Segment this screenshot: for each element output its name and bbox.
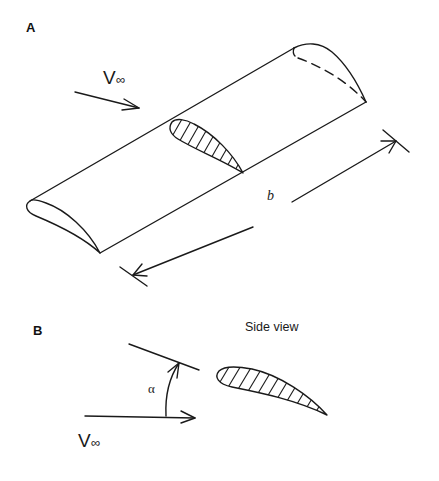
chord-line (129, 344, 199, 370)
freestream-arrow-a (75, 92, 139, 110)
freestream-arrow-b (85, 411, 195, 423)
svg-text:∞: ∞ (91, 435, 100, 450)
angle-arc-arrow: α (148, 363, 179, 416)
hatched-airfoil (214, 362, 332, 415)
freestream-label-b: V ∞ (78, 430, 100, 451)
svg-text:V: V (78, 430, 91, 451)
span-label: b (267, 188, 274, 203)
velocity-symbol: V (103, 67, 116, 88)
wing-diagram: A V ∞ (0, 0, 439, 481)
freestream-label-a: V ∞ (103, 67, 125, 88)
hatched-airfoil-section (170, 112, 250, 173)
panel-b: B Side view α V ∞ (33, 320, 332, 451)
panel-a: A V ∞ (26, 20, 409, 286)
alpha-label: α (148, 381, 155, 396)
panel-a-label: A (26, 20, 36, 35)
panel-b-label: B (33, 323, 42, 338)
side-view-title: Side view (245, 320, 299, 334)
figure-canvas: A V ∞ (0, 0, 439, 481)
span-dimension-arrow: b (120, 130, 409, 286)
tip-airfoil-hidden (298, 58, 366, 102)
root-airfoil (27, 200, 100, 253)
velocity-subscript: ∞ (116, 72, 125, 87)
